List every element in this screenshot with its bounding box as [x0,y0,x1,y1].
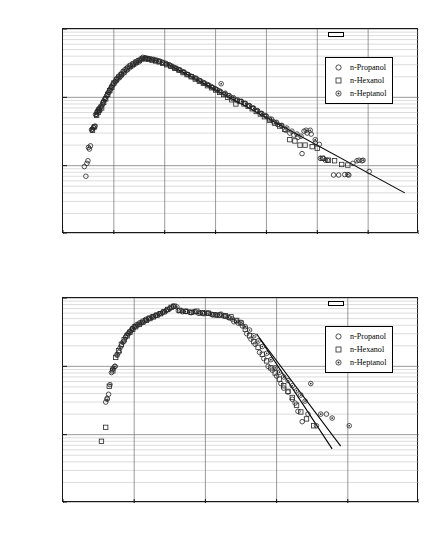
legend-marker-dotted-circle-icon [330,87,347,100]
legend-label: n-Propanol [347,63,386,72]
legend-label: n-Heptanol [347,358,386,367]
chart-title-box [328,32,344,37]
legend-item: n-Hexanol [330,343,386,356]
legend-label: n-Propanol [347,332,386,341]
legend-marker-dotted-circle-icon [330,356,347,369]
chart-title-box [328,301,344,306]
legend-marker-open-square-icon [330,74,347,87]
legend-marker-open-square-icon [330,343,347,356]
legend-label: n-Hexanol [347,76,384,85]
data-series-n-hexanol [90,56,350,167]
legend-marker-open-circle-icon [330,330,347,343]
plot-area-well-sb-6: n-Propanoln-Hexanoln-Heptanol [0,269,437,537]
data-series-n-heptanol [86,56,365,177]
legend-label: n-Heptanol [347,89,386,98]
chart-panel-well-sb-6: n-Propanoln-Hexanoln-Heptanol [0,269,437,537]
legend-item: n-Heptanol [330,87,386,100]
legend: n-Propanoln-Hexanoln-Heptanol [325,326,393,373]
figure-page: n-Propanoln-Hexanoln-Heptanol n-Propanol… [0,0,437,537]
legend-item: n-Heptanol [330,356,386,369]
plot-area-well-sb-5: n-Propanoln-Hexanoln-Heptanol [0,0,437,268]
legend: n-Propanoln-Hexanoln-Heptanol [325,57,393,104]
legend-item: n-Hexanol [330,74,386,87]
legend-item: n-Propanol [330,330,386,343]
legend-marker-open-circle-icon [330,61,347,74]
major-gridlines-x [134,298,348,503]
chart-panel-well-sb-5: n-Propanoln-Hexanoln-Heptanol [0,0,437,268]
legend-label: n-Hexanol [347,345,384,354]
legend-item: n-Propanol [330,61,386,74]
